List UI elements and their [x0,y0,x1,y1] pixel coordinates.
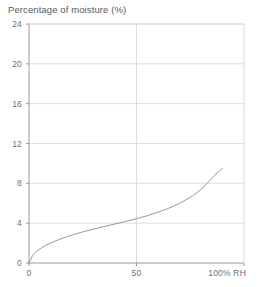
y-tick-label-16: 16 [12,99,22,109]
data-series-lines [29,168,223,263]
y-tick-label-12: 12 [12,139,22,149]
series-line-0 [29,168,223,263]
moisture-isotherm-chart: Percentage of moisture (%) 04812162024 0… [0,0,279,287]
y-tick-label-24: 24 [12,19,22,29]
axis-tick-marks [26,24,244,266]
x-tick-label-0: 0 [27,268,32,278]
y-tick-label-4: 4 [17,218,22,228]
chart-plot-area: 04812162024 050100% RH [0,0,279,287]
y-tick-label-20: 20 [12,59,22,69]
x-axis-tick-labels: 050100% RH [27,268,246,278]
y-axis-tick-labels: 04812162024 [12,19,22,268]
x-tick-label-50: 50 [132,268,142,278]
x-axis-unit-label: 100% RH [208,268,246,278]
y-tick-label-8: 8 [17,178,22,188]
y-tick-label-0: 0 [17,258,22,268]
